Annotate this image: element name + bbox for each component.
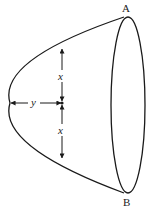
label-x-lower: x (57, 124, 63, 136)
label-x-upper: x (57, 70, 63, 82)
paraboloid-diagram: y x x A B (0, 0, 147, 209)
center-point (60, 101, 63, 104)
label-y: y (30, 96, 36, 108)
label-point-b: B (123, 196, 130, 208)
opening-ellipse (111, 17, 145, 193)
label-point-a: A (122, 2, 130, 14)
parabola-curve (9, 17, 124, 193)
